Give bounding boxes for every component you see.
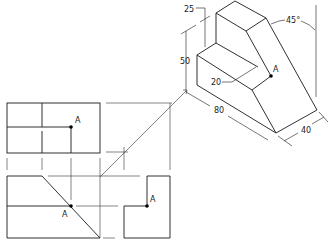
side-view-label-a: A <box>150 195 156 204</box>
top-view-label-a: A <box>75 116 81 125</box>
top-view-point-a <box>69 125 73 129</box>
iso-step-edge-front <box>197 55 252 90</box>
dim-25-leader <box>196 8 205 47</box>
dim-50-label: 50 <box>180 57 190 66</box>
dim-40-ext <box>319 112 328 122</box>
side-view-point-a <box>145 204 149 208</box>
iso-slope-front-upper <box>246 31 271 76</box>
iso-step-edge-right <box>252 76 271 90</box>
iso-slope-right <box>266 18 317 110</box>
dim-25-label: 25 <box>184 5 194 14</box>
side-view: A <box>124 176 170 238</box>
angle-arc-right <box>301 21 315 30</box>
dim-40-label: 40 <box>301 126 311 135</box>
front-view-label-a: A <box>62 210 68 219</box>
dim-40-line-right <box>312 117 324 124</box>
dim-50-ext-top <box>181 25 196 34</box>
front-view-point-a <box>69 204 73 208</box>
iso-label-a: A <box>273 65 279 74</box>
dim-20-label: 20 <box>211 78 221 87</box>
dim-80-label: 80 <box>214 106 224 115</box>
iso-point-a <box>269 74 273 78</box>
iso-step-edge-left <box>197 43 216 55</box>
top-view: A <box>7 103 100 153</box>
iso-bottom-front <box>197 85 276 133</box>
iso-top-face <box>216 1 266 31</box>
dim-80-line-left <box>186 92 210 106</box>
dim-40-line-left <box>284 133 298 141</box>
dim-80-line-right <box>228 116 268 140</box>
top-view-outline <box>7 103 100 153</box>
angle-label: 45° <box>286 16 300 25</box>
iso-slope-front-lower <box>252 90 276 133</box>
miter-line <box>100 91 186 177</box>
angle-arc-left <box>271 20 285 24</box>
projection-lines <box>7 90 187 238</box>
front-view: A <box>7 176 100 238</box>
iso-step-edge-back <box>216 43 258 67</box>
front-view-outline <box>7 176 100 238</box>
drawing-canvas: A A A <box>0 0 330 243</box>
